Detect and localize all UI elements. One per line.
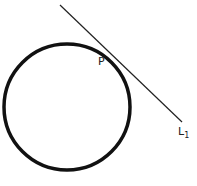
point-p-label: P [98, 56, 105, 67]
tangent-line-l1 [60, 5, 182, 122]
diagram-canvas [0, 0, 197, 186]
line-label-subscript: 1 [184, 131, 189, 140]
line-l1-label: L1 [178, 126, 189, 140]
circle [4, 44, 130, 170]
